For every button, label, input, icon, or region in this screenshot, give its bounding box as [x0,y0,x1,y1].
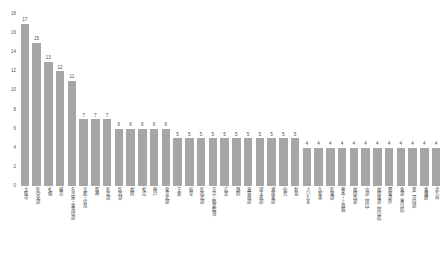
bar-value-label: 5 [200,133,203,138]
x-axis-label: 福岡 [128,187,133,257]
bar-rect[interactable] [303,148,312,186]
bar-item[interactable]: 4 [395,14,407,186]
x-label-slot: 区中央部 [31,187,43,257]
x-label-slot: 神戸 [148,187,160,257]
bar-value-label: 5 [247,133,250,138]
bar-item[interactable]: 6 [125,14,137,186]
bar-item[interactable]: 5 [289,14,301,186]
bar-item[interactable]: 4 [348,14,360,186]
bar-item[interactable]: 4 [336,14,348,186]
bar-item[interactable]: 4 [325,14,337,186]
bar-rect[interactable] [314,148,323,186]
bar-value-label: 6 [141,123,144,128]
bar-item[interactable]: 13 [43,14,55,186]
bar-rect[interactable] [432,148,441,186]
bar-rect[interactable] [220,138,229,186]
bar-item[interactable]: 6 [160,14,172,186]
bar-item[interactable]: 12 [54,14,66,186]
bar-item[interactable]: 4 [372,14,384,186]
bar-rect[interactable] [21,24,30,186]
bar-value-label: 5 [282,133,285,138]
bar-item[interactable]: 5 [219,14,231,186]
bar-rect[interactable] [326,148,335,186]
x-axis-label: 福岡東部（岡山県） [375,187,380,257]
bar-item[interactable]: 11 [66,14,78,186]
bar-rect[interactable] [79,119,88,186]
x-label-slot: 新潟 [289,187,301,257]
bar-item[interactable]: 4 [407,14,419,186]
bar-item[interactable]: 5 [254,14,266,186]
bar-value-label: 5 [223,133,226,138]
bar-item[interactable]: 5 [266,14,278,186]
bar-item[interactable]: 6 [113,14,125,186]
bar-rect[interactable] [291,138,300,186]
bar-rect[interactable] [373,148,382,186]
bar-item[interactable]: 17 [19,14,31,186]
x-label-slot: 東京北部 [160,187,172,257]
bar-rect[interactable] [338,148,347,186]
bar-rect[interactable] [397,148,406,186]
bar-rect[interactable] [162,129,171,186]
bar-item[interactable]: 4 [419,14,431,186]
bar-item[interactable]: 5 [207,14,219,186]
bar-rect[interactable] [68,81,77,186]
bar-rect[interactable] [103,119,112,186]
bar-rect[interactable] [150,129,159,186]
bar-item[interactable]: 5 [231,14,243,186]
bar-value-label: 5 [235,133,238,138]
bar-item[interactable]: 4 [301,14,313,186]
bar-item[interactable]: 7 [78,14,90,186]
bar-rect[interactable] [44,62,53,186]
x-axis-label: 区東部 [328,187,333,257]
bar-item[interactable]: 5 [242,14,254,186]
x-label-slot: 千葉 [172,187,184,257]
bar-rect[interactable] [91,119,100,186]
bar-item[interactable]: 6 [137,14,149,186]
bar-rect[interactable] [232,138,241,186]
bar-item[interactable]: 7 [101,14,113,186]
x-label-slot: 松山 [137,187,149,257]
bar-item[interactable]: 5 [172,14,184,186]
bar-item[interactable]: 7 [90,14,102,186]
bar-item[interactable]: 4 [313,14,325,186]
bar-rect[interactable] [197,138,206,186]
bar-rect[interactable] [173,138,182,186]
bar-rect[interactable] [350,148,359,186]
x-label-slot: 区東部 [325,187,337,257]
bar-rect[interactable] [32,43,41,186]
bar-rect[interactable] [361,148,370,186]
bar-rect[interactable] [115,129,124,186]
bar-rect[interactable] [138,129,147,186]
bar-item[interactable]: 6 [148,14,160,186]
y-axis-tick: 6 [13,126,16,131]
bar-value-label: 5 [294,133,297,138]
x-axis-label: 京都・伏見 [81,187,86,257]
bar-rect[interactable] [126,129,135,186]
bar-item[interactable]: 5 [278,14,290,186]
x-label-slot: 熊本・上益城 [336,187,348,257]
x-axis-label: 千葉 [175,187,180,257]
bar-item[interactable]: 5 [195,14,207,186]
y-axis: 024681012141618 [0,14,19,186]
bar-item[interactable]: 4 [430,14,442,186]
bar-value-label: 6 [165,123,168,128]
x-axis-label: 北九州 [434,187,439,257]
bar-item[interactable]: 15 [31,14,43,186]
bar-series: 1715131211777666665555555555544444444444… [19,14,442,186]
bar-item[interactable]: 4 [360,14,372,186]
bar-rect[interactable] [408,148,417,186]
bar-rect[interactable] [279,138,288,186]
x-label-slot: 仙台 [278,187,290,257]
bar-value-label: 7 [106,114,109,119]
bar-rect[interactable] [256,138,265,186]
x-axis-label: 広島 [222,187,227,257]
bar-item[interactable]: 4 [383,14,395,186]
bar-rect[interactable] [209,138,218,186]
bar-rect[interactable] [420,148,429,186]
bar-rect[interactable] [185,138,194,186]
bar-rect[interactable] [56,71,65,186]
bar-rect[interactable] [267,138,276,186]
bar-rect[interactable] [385,148,394,186]
bar-item[interactable]: 5 [184,14,196,186]
bar-rect[interactable] [244,138,253,186]
